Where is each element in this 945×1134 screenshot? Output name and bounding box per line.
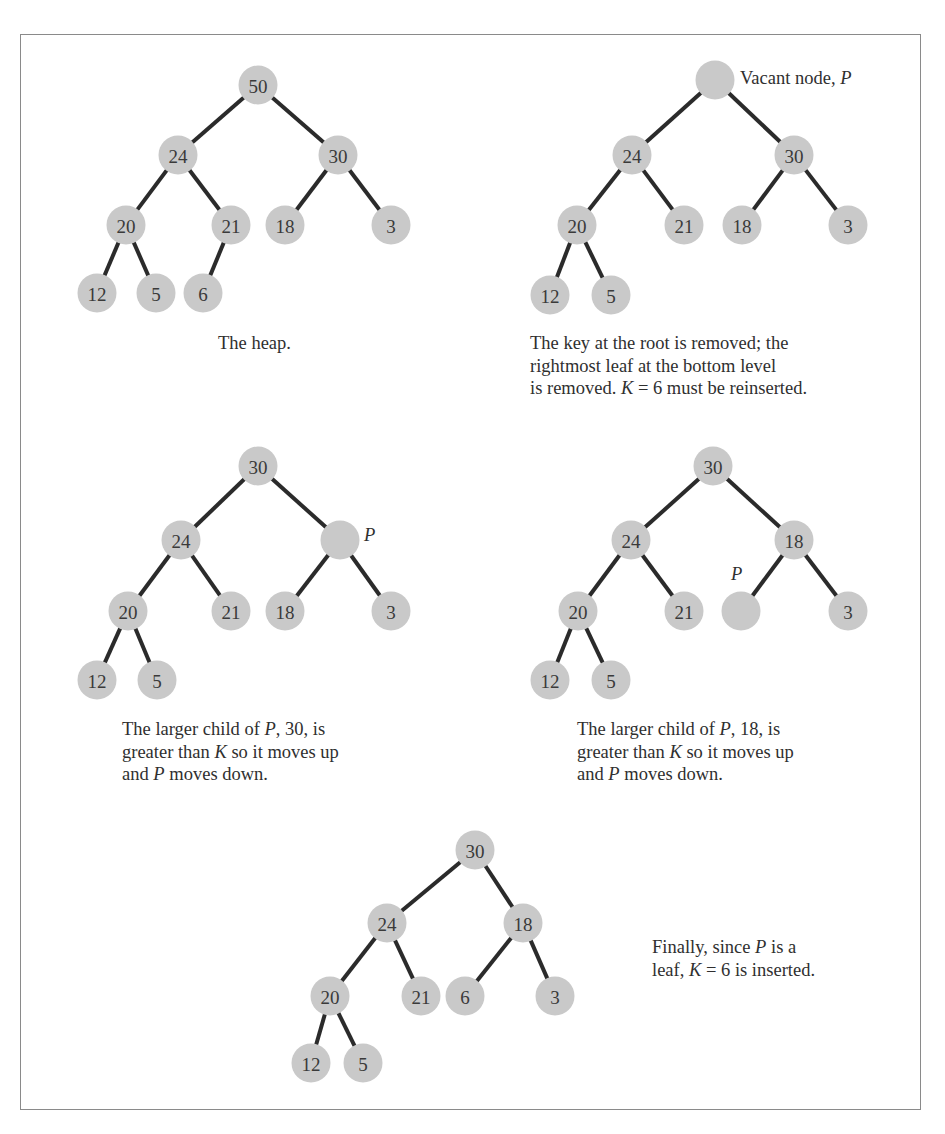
- heap-node: 18: [723, 206, 762, 245]
- node-key: 3: [843, 216, 853, 237]
- node-key: 20: [569, 602, 588, 623]
- tree-edge: [588, 170, 620, 211]
- node-key: 5: [151, 284, 161, 305]
- node-key: 5: [606, 286, 616, 307]
- node-key: 30: [329, 146, 348, 167]
- heap-node: 6: [184, 274, 223, 313]
- node-key: 12: [88, 671, 107, 692]
- heap-node: 21: [402, 977, 441, 1016]
- caption-line: The larger child of P, 18, is: [577, 718, 794, 741]
- tree-edge: [139, 555, 170, 596]
- heap-node: 30: [775, 136, 814, 175]
- node-key: 50: [249, 76, 268, 97]
- tree-edge: [349, 170, 380, 211]
- node-key: 18: [785, 531, 804, 552]
- heap-node: 20: [558, 206, 597, 245]
- node-key: 20: [119, 602, 138, 623]
- panel-5: 302418202163125: [292, 831, 575, 1083]
- heap-node: 20: [107, 206, 146, 245]
- node-key: 24: [169, 146, 189, 167]
- node-key: 12: [88, 284, 107, 305]
- tree-edge: [645, 478, 700, 527]
- tree-edge: [341, 938, 375, 982]
- tree-edge: [296, 555, 328, 597]
- tree-edge: [557, 628, 571, 663]
- node-key: 21: [675, 602, 694, 623]
- heap-node: 21: [665, 206, 704, 245]
- tree-edge: [105, 628, 121, 663]
- p-pointer-label: P: [731, 564, 742, 585]
- panel-4: 30241820213125: [531, 447, 868, 700]
- tree-edge: [530, 940, 547, 979]
- heap-node: 20: [559, 592, 598, 631]
- tree-edge: [194, 479, 244, 527]
- node-circle: [696, 61, 735, 100]
- heap-node: 5: [592, 276, 631, 315]
- panel-2-caption: The key at the root is removed; theright…: [530, 332, 807, 400]
- node-circle: [321, 521, 360, 560]
- vacant-node: [321, 521, 360, 560]
- node-key: 24: [623, 146, 643, 167]
- heap-node: 24: [159, 136, 198, 175]
- tree-edge: [351, 555, 380, 596]
- heap-node: 12: [531, 661, 570, 700]
- tree-edge: [272, 97, 324, 143]
- node-key: 12: [302, 1054, 321, 1075]
- node-key: 3: [550, 987, 560, 1008]
- heap-node: 3: [372, 592, 411, 631]
- caption-line: The key at the root is removed; the: [530, 332, 807, 355]
- tree-edge: [805, 170, 836, 211]
- node-key: 5: [606, 671, 616, 692]
- heap-node: 12: [292, 1044, 331, 1083]
- heap-node: 30: [319, 136, 358, 175]
- node-key: 3: [386, 602, 396, 623]
- math-variable: K: [621, 378, 633, 398]
- heap-node: 12: [531, 276, 570, 315]
- node-key: 30: [466, 841, 485, 862]
- node-key: 18: [514, 914, 533, 935]
- heap-node: 18: [266, 592, 305, 631]
- heap-node: 12: [78, 661, 117, 700]
- tree-edge: [210, 242, 224, 276]
- tree-edge: [557, 242, 571, 277]
- panel-3: 30242021183125: [78, 447, 411, 700]
- tree-edge: [316, 1014, 325, 1045]
- panel-1-caption: The heap.: [218, 332, 291, 355]
- heap-node: 18: [266, 206, 305, 245]
- p-pointer-label: P: [364, 525, 375, 546]
- tree-edge: [477, 938, 512, 982]
- node-key: 24: [378, 914, 398, 935]
- node-key: 18: [276, 602, 295, 623]
- node-key: 20: [117, 216, 136, 237]
- node-key: 6: [198, 284, 208, 305]
- node-key: 24: [622, 531, 642, 552]
- heap-node: 21: [212, 592, 251, 631]
- heap-node: 3: [829, 206, 868, 245]
- node-key: 5: [358, 1054, 368, 1075]
- tree-edge: [727, 479, 781, 528]
- node-key: 5: [152, 671, 162, 692]
- vacant-node: [696, 61, 735, 100]
- node-key: 20: [321, 987, 340, 1008]
- heap-node: 5: [137, 274, 176, 313]
- heap-node: 18: [504, 904, 543, 943]
- math-variable: P: [719, 719, 730, 739]
- tree-edge: [296, 170, 327, 211]
- heap-node: 6: [446, 977, 485, 1016]
- heap-node: 24: [613, 136, 652, 175]
- tree-edge: [646, 92, 702, 142]
- node-key: 12: [541, 671, 560, 692]
- tree-edge: [134, 242, 149, 276]
- heap-node: 3: [829, 592, 868, 631]
- heap-node: 20: [109, 592, 148, 631]
- tree-edge: [135, 628, 150, 663]
- caption-line: greater than K so it moves up: [577, 741, 794, 764]
- caption-line: greater than K so it moves up: [122, 741, 339, 764]
- tree-edge: [272, 478, 327, 527]
- heap-node: 3: [536, 977, 575, 1016]
- tree-edge: [338, 1013, 355, 1047]
- heap-node: 20: [311, 977, 350, 1016]
- tree-edge: [728, 93, 780, 143]
- heap-deletion-figure: 5024302021183125624302021183125302420211…: [0, 0, 945, 1134]
- vacant-node: [722, 592, 761, 631]
